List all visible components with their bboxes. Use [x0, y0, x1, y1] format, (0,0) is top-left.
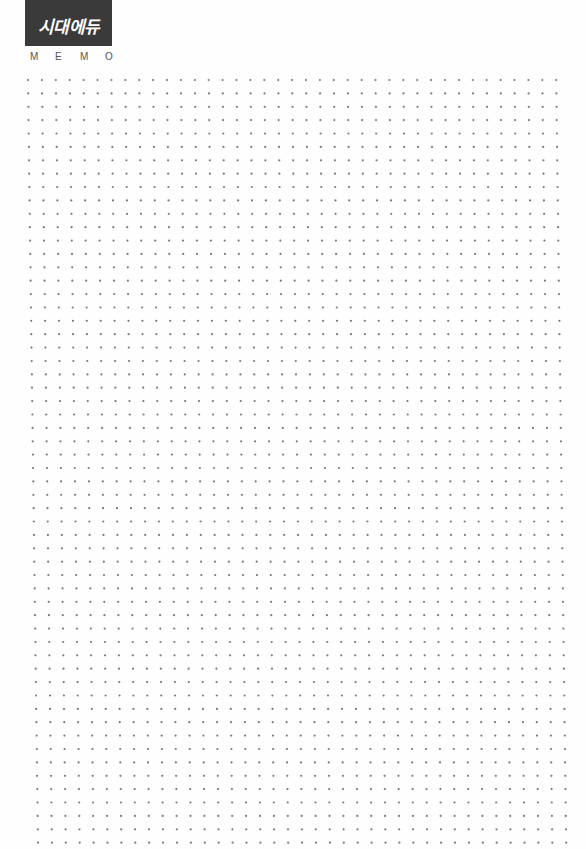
dot-grid-dots	[27, 79, 567, 844]
memo-page: 시대에듀 M E M O	[0, 0, 586, 849]
dot-grid-writing-area[interactable]	[0, 0, 586, 849]
